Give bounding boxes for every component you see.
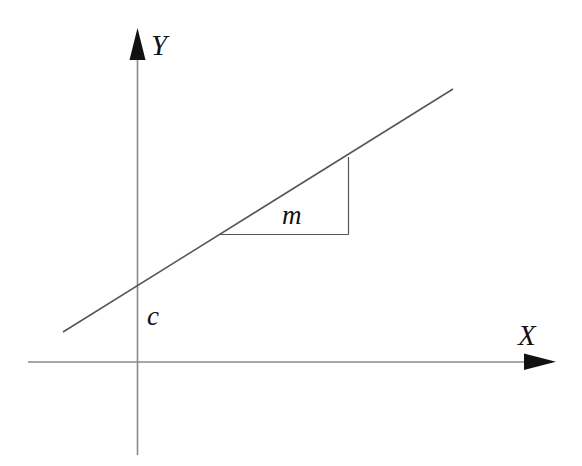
intercept-label-c: c xyxy=(147,301,159,331)
y-axis-arrow-icon xyxy=(130,28,146,60)
y-axis-label: Y xyxy=(151,29,170,61)
plotted-line xyxy=(63,89,453,332)
diagram-canvas: Y X m c xyxy=(0,0,582,466)
x-axis-label: X xyxy=(517,319,537,351)
x-axis-arrow-icon xyxy=(524,354,556,371)
linear-graph-diagram: Y X m c xyxy=(0,0,582,466)
slope-label-m: m xyxy=(282,200,302,230)
